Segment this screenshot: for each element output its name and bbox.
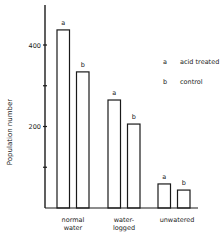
bar-chart: 200400 abnormalwaterabwater-loggedabunwa…	[0, 0, 224, 234]
x-tick-label: water	[64, 224, 83, 232]
bar-a	[108, 100, 121, 208]
bar-data-label: b	[81, 61, 85, 69]
legend-label: acid treated	[180, 58, 219, 66]
bar-data-label: b	[182, 179, 186, 187]
legend: aacid treatedbcontrol	[163, 58, 219, 86]
bar-data-label: a	[112, 89, 116, 97]
legend-key: a	[163, 58, 167, 66]
bar-data-label: a	[61, 19, 65, 27]
x-tick-label: water-	[114, 216, 135, 224]
y-tick-label: 200	[29, 123, 41, 131]
bar-data-label: b	[132, 113, 136, 121]
legend-label: control	[180, 78, 203, 86]
bar-b	[128, 124, 141, 208]
x-tick-label: normal	[62, 216, 85, 224]
axes: 200400	[29, 5, 198, 208]
bar-data-label: a	[162, 173, 166, 181]
y-axis-label: Population number	[6, 99, 14, 165]
x-tick-label: unwatered	[160, 216, 195, 224]
bar-b	[178, 190, 191, 208]
bar-a	[158, 184, 171, 208]
x-tick-label: logged	[113, 224, 135, 232]
bars: abnormalwaterabwater-loggedabunwatered	[57, 19, 194, 232]
y-tick-label: 400	[29, 42, 41, 50]
bar-b	[77, 72, 90, 208]
bar-a	[57, 30, 70, 208]
legend-key: b	[163, 78, 167, 86]
